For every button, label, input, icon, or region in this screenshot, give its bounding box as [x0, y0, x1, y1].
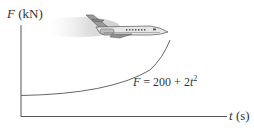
y-axis-label: F (kN): [7, 6, 43, 22]
x-axis-label: t (s): [229, 108, 250, 124]
equation-label: F = 200 + 2t2: [133, 74, 197, 90]
force-time-diagram: F (kN) t (s) F = 200 + 2t2: [0, 0, 254, 135]
